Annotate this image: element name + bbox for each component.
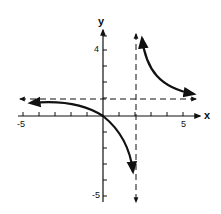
- curve-left-branch: [30, 102, 133, 172]
- y-axis-label: y: [98, 16, 104, 27]
- y-tick-label-4: 4: [94, 45, 99, 54]
- x-axis-label: x: [204, 110, 210, 121]
- x-tick-label-5: 5: [181, 120, 186, 129]
- y-tick-label-neg5: -5: [92, 191, 100, 200]
- chart-plot: [0, 0, 221, 214]
- curve-right-branch: [142, 38, 194, 94]
- x-tick-label-neg5: -5: [17, 120, 25, 129]
